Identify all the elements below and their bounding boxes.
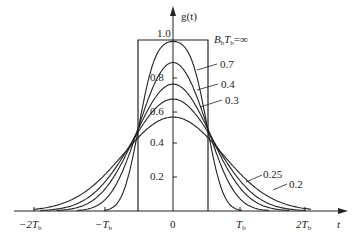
label-bt-0.2: 0.2 (289, 178, 303, 190)
y-tick-0.6: 0.6 (150, 105, 164, 117)
x-tick-minus-tb: −Tb (95, 218, 113, 232)
y-tick-0.2: 0.2 (150, 170, 164, 182)
curve-bt-0.2 (34, 117, 311, 209)
x-tick-2tb: 2Tb (296, 218, 312, 232)
y-tick-0.4: 0.4 (150, 136, 164, 148)
label-bt-inf: BbTb=∞ (214, 33, 248, 47)
x-tick-zero: 0 (170, 218, 176, 230)
label-bt-0.3: 0.3 (225, 94, 239, 106)
y-axis-arrow-icon (170, 6, 176, 16)
label-bt-0.7: 0.7 (220, 58, 234, 70)
y-tick-1.0: 1.0 (157, 27, 171, 39)
y-tick-0.8: 0.8 (150, 71, 164, 83)
gaussian-curves (34, 41, 311, 210)
x-axis-arrow-icon (338, 208, 348, 214)
x-tick-minus-2tb: −2Tb (19, 218, 42, 232)
y-ticks (173, 78, 177, 177)
x-tick-tb: Tb (236, 218, 246, 232)
gaussian-pulse-chart: g(t) t 1.0 0.8 0.6 0.4 0.2 −2Tb −Tb 0 Tb… (0, 0, 355, 241)
label-bt-0.4: 0.4 (221, 78, 235, 90)
y-axis-label: g(t) (181, 10, 197, 23)
x-axis-label: t (337, 218, 341, 230)
label-bt-0.25: 0.25 (263, 168, 283, 180)
